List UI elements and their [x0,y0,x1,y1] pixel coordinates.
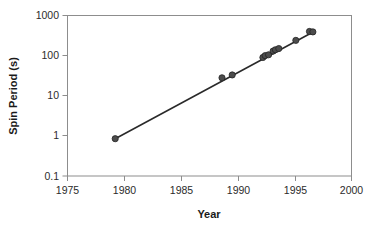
y-axis-title: Spin Period (s) [7,57,19,135]
y-tick-label-0.1: 0.1 [44,170,59,182]
data-point [276,45,282,51]
x-tick-label-1990: 1990 [227,184,251,196]
y-tick-label-1: 1 [53,129,59,141]
x-axis-title: Year [197,208,221,220]
spin-period-scatter-chart: 1000 100 10 1 0.1 1975 1980 1985 1990 19… [0,0,385,227]
data-point [219,75,225,81]
data-point [293,37,299,43]
data-point [112,136,118,142]
y-tick-label-1000: 1000 [36,9,60,21]
data-point [310,29,316,35]
x-tick-label-1980: 1980 [113,184,137,196]
y-tick-label-10: 10 [47,89,59,101]
y-tick-label-100: 100 [41,49,59,61]
x-tick-label-1985: 1985 [170,184,194,196]
x-tick-label-1975: 1975 [56,184,80,196]
data-point [229,72,235,78]
chart-figure: 1000 100 10 1 0.1 1975 1980 1985 1990 19… [0,0,385,227]
x-tick-label-2000: 2000 [340,184,364,196]
x-tick-label-1995: 1995 [284,184,308,196]
